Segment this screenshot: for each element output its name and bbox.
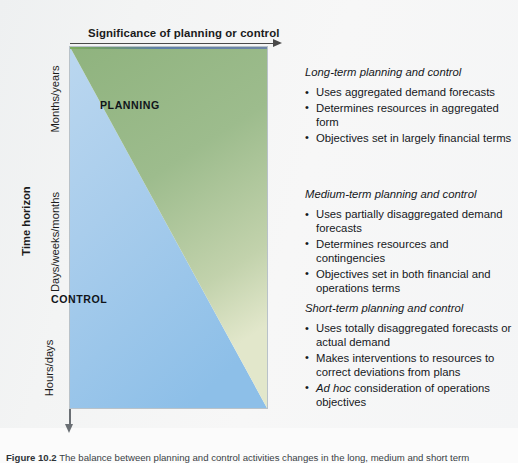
note-group-medium-term: Medium-term planning and control Uses pa… [305, 188, 517, 297]
note-bullet-list: Uses aggregated demand forecasts Determi… [305, 85, 517, 145]
note-heading: Short-term planning and control [305, 302, 517, 314]
note-bullet: Objectives set in largely financial term… [305, 131, 517, 145]
figure-caption-text: The balance between planning and control… [59, 452, 469, 463]
note-group-long-term: Long-term planning and control Uses aggr… [305, 66, 517, 146]
zone-label-planning: PLANNING [100, 99, 160, 111]
note-bullet: Uses partially disaggregated demand fore… [305, 207, 517, 235]
note-bullet: Objectives set in both financial and ope… [305, 267, 517, 295]
top-axis-title: Significance of planning or control [88, 27, 279, 39]
y-axis-tick-days-weeks-months: Days/weeks/months [49, 182, 61, 302]
note-bullet: Makes interventions to resources to corr… [305, 351, 517, 379]
figure-caption: Figure 10.2 The balance between planning… [6, 452, 514, 463]
note-heading: Long-term planning and control [305, 66, 517, 78]
note-bullet-italic-term: Ad hoc [316, 382, 351, 394]
note-group-short-term: Short-term planning and control Uses tot… [305, 302, 517, 411]
note-bullet: Determines resources in aggregated form [305, 101, 517, 129]
note-bullet-list: Uses totally disaggregated forecasts or … [305, 321, 517, 409]
y-axis-tick-months-years: Months/years [49, 39, 61, 159]
note-heading: Medium-term planning and control [305, 188, 517, 200]
figure-caption-label: Figure 10.2 [6, 452, 57, 463]
note-bullet: Uses totally disaggregated forecasts or … [305, 321, 517, 349]
note-bullet: Ad hoc consideration of operations objec… [305, 381, 517, 409]
figure-page: Significance of planning or control Time… [0, 0, 518, 463]
note-bullet-list: Uses partially disaggregated demand fore… [305, 207, 517, 295]
note-bullet: Uses aggregated demand forecasts [305, 85, 517, 99]
y-axis-tick-hours-days: Hours/days [43, 308, 55, 428]
horizontal-axis-arrow-icon [70, 43, 274, 45]
zone-label-control: CONTROL [51, 293, 107, 305]
side-axis-title: Time horizon [20, 161, 32, 281]
note-bullet: Determines resources and contingencies [305, 237, 517, 265]
